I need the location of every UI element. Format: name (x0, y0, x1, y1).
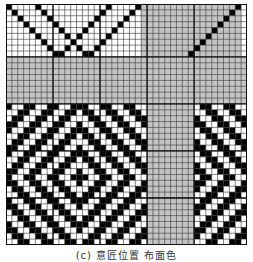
white-cell (35, 198, 41, 204)
black-cell (65, 110, 71, 116)
white-cell (194, 192, 200, 198)
gray-cell (88, 75, 94, 81)
white-cell (124, 33, 130, 39)
white-cell (88, 221, 94, 227)
white-cell (41, 104, 47, 110)
white-cell (112, 122, 118, 128)
white-cell (77, 157, 83, 163)
gray-cell (229, 28, 235, 34)
white-cell (18, 45, 24, 51)
gray-cell (112, 98, 118, 104)
gray-cell (171, 16, 177, 22)
gray-cell (59, 86, 65, 92)
black-cell (118, 227, 124, 233)
black-cell (94, 163, 100, 169)
black-cell (59, 51, 65, 57)
black-cell (18, 133, 24, 139)
white-cell (41, 28, 47, 34)
black-cell (194, 233, 200, 239)
black-cell (77, 180, 83, 186)
black-cell (41, 157, 47, 163)
white-cell (106, 145, 112, 151)
gray-cell (176, 98, 182, 104)
gray-cell (147, 145, 153, 151)
gray-cell (147, 151, 153, 157)
white-cell (118, 192, 124, 198)
white-cell (118, 28, 124, 34)
black-cell (229, 10, 235, 16)
white-cell (206, 139, 212, 145)
gray-cell (112, 80, 118, 86)
white-cell (82, 169, 88, 175)
black-cell (47, 133, 53, 139)
white-cell (212, 227, 218, 233)
white-cell (129, 163, 135, 169)
white-cell (30, 110, 36, 116)
gray-cell (12, 75, 18, 81)
gray-cell (35, 63, 41, 69)
black-cell (12, 186, 18, 192)
gray-cell (176, 151, 182, 157)
gray-cell (135, 92, 141, 98)
white-cell (218, 110, 224, 116)
gray-cell (171, 186, 177, 192)
black-cell (30, 28, 36, 34)
gray-cell (171, 51, 177, 57)
white-cell (12, 192, 18, 198)
white-cell (47, 145, 53, 151)
gray-cell (118, 57, 124, 63)
black-cell (223, 227, 229, 233)
gray-cell (59, 98, 65, 104)
white-cell (18, 204, 24, 210)
gray-cell (59, 80, 65, 86)
black-cell (106, 198, 112, 204)
black-cell (141, 145, 147, 151)
gray-cell (124, 69, 130, 75)
gray-cell (218, 63, 224, 69)
black-cell (206, 133, 212, 139)
black-cell (77, 127, 83, 133)
white-cell (47, 122, 53, 128)
gray-cell (188, 163, 194, 169)
white-cell (71, 22, 77, 28)
black-cell (135, 110, 141, 116)
gray-cell (218, 92, 224, 98)
white-cell (77, 210, 83, 216)
black-cell (112, 28, 118, 34)
gray-cell (188, 86, 194, 92)
gray-cell (153, 169, 159, 175)
gray-cell (171, 80, 177, 86)
black-cell (47, 127, 53, 133)
gray-cell (229, 33, 235, 39)
black-cell (47, 221, 53, 227)
gray-cell (65, 57, 71, 63)
gray-cell (153, 174, 159, 180)
white-cell (47, 169, 53, 175)
black-cell (77, 122, 83, 128)
gray-cell (188, 139, 194, 145)
gray-cell (106, 57, 112, 63)
white-cell (77, 39, 83, 45)
white-cell (35, 157, 41, 163)
black-cell (212, 233, 218, 239)
white-cell (112, 180, 118, 186)
gray-cell (82, 98, 88, 104)
black-cell (218, 116, 224, 122)
gray-cell (171, 110, 177, 116)
gray-cell (100, 75, 106, 81)
gray-cell (147, 174, 153, 180)
white-cell (135, 51, 141, 57)
gray-cell (141, 57, 147, 63)
white-cell (35, 174, 41, 180)
gray-cell (165, 57, 171, 63)
gray-cell (223, 22, 229, 28)
white-cell (24, 204, 30, 210)
gray-cell (182, 122, 188, 128)
gray-cell (235, 22, 241, 28)
gray-cell (65, 63, 71, 69)
gray-cell (24, 57, 30, 63)
white-cell (124, 157, 130, 163)
black-cell (135, 139, 141, 145)
black-cell (47, 104, 53, 110)
black-cell (223, 180, 229, 186)
